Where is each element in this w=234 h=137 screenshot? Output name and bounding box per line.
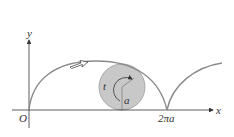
cusp-label: 2πa [158,112,175,124]
x-axis-label: x [215,104,221,116]
radius-label: a [124,94,130,106]
cycloid-diagram: y x O 2πa t a [0,0,234,137]
origin-label: O [19,112,27,124]
y-axis-label: y [26,27,32,39]
